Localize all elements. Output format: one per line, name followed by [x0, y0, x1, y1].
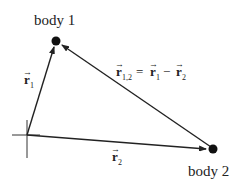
vector-r1-arrow [27, 47, 54, 135]
vector-diagram: body 1 body 2 r 1 → r 2 → → r 1,2 = → r … [0, 0, 245, 187]
equation-r12-label: → r 1,2 = → r 1 − → r 2 [115, 59, 186, 82]
body-2-label: body 2 [188, 163, 229, 179]
body-2-dot [209, 145, 218, 154]
origin-crosshair [12, 120, 40, 158]
vector-r1-label: r 1 → [23, 67, 34, 90]
vector-r2-label: r 2 → [111, 144, 122, 167]
svg-text:→: → [23, 67, 32, 77]
vector-r12-arrow [62, 45, 211, 147]
body-1-dot [52, 37, 61, 46]
svg-text:1,2: 1,2 [122, 73, 132, 82]
svg-text:2: 2 [182, 73, 186, 82]
svg-text:1: 1 [156, 73, 160, 82]
svg-text:2: 2 [118, 158, 122, 167]
svg-text:−: − [163, 64, 170, 79]
svg-text:1: 1 [30, 81, 34, 90]
svg-text:=: = [136, 64, 143, 79]
svg-text:→: → [111, 144, 120, 154]
body-1-label: body 1 [34, 12, 75, 28]
